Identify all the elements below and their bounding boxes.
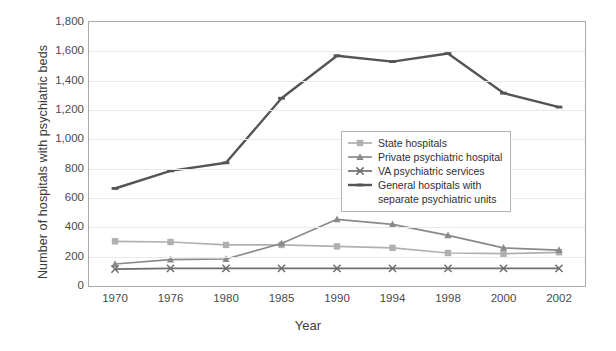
legend-label: VA psychiatric services <box>378 164 485 178</box>
x-tick-label: 2000 <box>491 292 517 304</box>
y-tick-label: 600 <box>28 191 84 203</box>
series-1 <box>111 215 562 266</box>
data-point-square <box>445 250 451 256</box>
legend-label: General hospitals with <box>378 178 481 192</box>
data-point-square <box>334 243 340 249</box>
legend-item[interactable]: General hospitals with <box>347 178 502 192</box>
legend: State hospitalsPrivate psychiatric hospi… <box>341 131 511 212</box>
legend-marker-x-icon <box>347 164 373 178</box>
data-point-dash <box>278 97 285 100</box>
x-tick-label: 1980 <box>213 292 239 304</box>
y-tick-label: 800 <box>28 162 84 174</box>
data-point-square <box>223 242 229 248</box>
data-point-square <box>112 238 118 244</box>
legend-item[interactable]: State hospitals <box>347 136 502 150</box>
y-tick-label: 0 <box>28 279 84 291</box>
series-2 <box>111 265 562 273</box>
data-point-dash <box>334 54 341 57</box>
gridline <box>89 257 585 258</box>
series-0 <box>112 238 562 257</box>
x-tick-label: 1976 <box>158 292 184 304</box>
data-point-dash <box>357 184 364 187</box>
y-tick-label: 1,600 <box>28 44 84 56</box>
data-point-dash <box>445 52 452 55</box>
gridline <box>89 81 585 82</box>
gridline <box>89 110 585 111</box>
data-point-dash <box>389 60 396 63</box>
legend-item[interactable]: VA psychiatric services <box>347 164 502 178</box>
line-chart: Number of hospitals with psychiatric bed… <box>0 0 616 351</box>
x-tick-label: 1970 <box>102 292 128 304</box>
data-point-dash <box>500 92 507 95</box>
legend-item[interactable]: Private psychiatric hospital <box>347 150 502 164</box>
x-tick-label: 2002 <box>546 292 572 304</box>
y-tick-label: 1,000 <box>28 132 84 144</box>
y-tick-label: 1,400 <box>28 74 84 86</box>
x-axis-title: Year <box>0 318 616 333</box>
y-tick-label: 200 <box>28 250 84 262</box>
x-tick-label: 1990 <box>324 292 350 304</box>
data-point-square <box>357 140 363 146</box>
data-point-square <box>500 251 506 257</box>
y-tick-label: 400 <box>28 220 84 232</box>
legend-marker-dash-icon <box>347 178 373 192</box>
legend-label: State hospitals <box>378 136 447 150</box>
gridline <box>89 51 585 52</box>
gridline <box>89 227 585 228</box>
legend-marker-triangle-icon <box>347 150 373 164</box>
y-tick-label: 1,800 <box>28 15 84 27</box>
data-point-dash <box>112 187 119 190</box>
legend-label: Private psychiatric hospital <box>378 150 502 164</box>
data-point-square <box>389 245 395 251</box>
legend-marker-square-icon <box>347 136 373 150</box>
x-tick-label: 1998 <box>435 292 461 304</box>
legend-label-continued: separate psychiatric units <box>347 192 502 206</box>
x-tick-label: 1994 <box>380 292 406 304</box>
data-point-dash <box>556 106 563 109</box>
data-point-dash <box>223 161 230 164</box>
data-point-square <box>167 239 173 245</box>
x-tick-label: 1985 <box>269 292 295 304</box>
y-tick-label: 1,200 <box>28 103 84 115</box>
